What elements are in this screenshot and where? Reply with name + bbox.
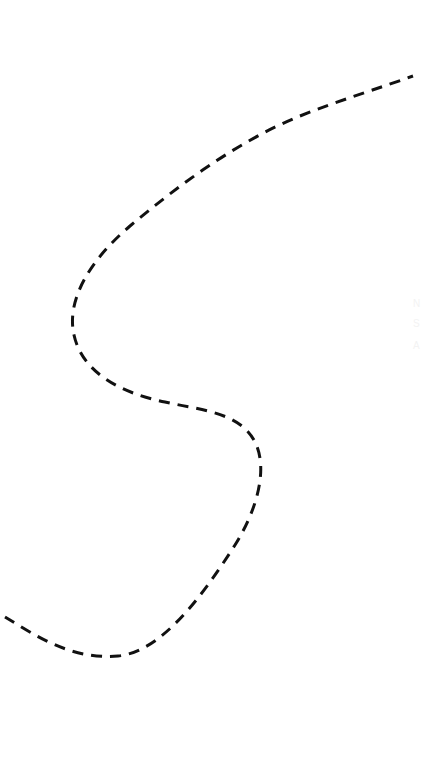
ghost-mark: S [413, 318, 420, 330]
ghost-mark: N [413, 298, 420, 310]
canvas-background [0, 0, 425, 770]
ghost-mark: A [413, 340, 420, 352]
drawing-canvas[interactable] [0, 0, 425, 770]
